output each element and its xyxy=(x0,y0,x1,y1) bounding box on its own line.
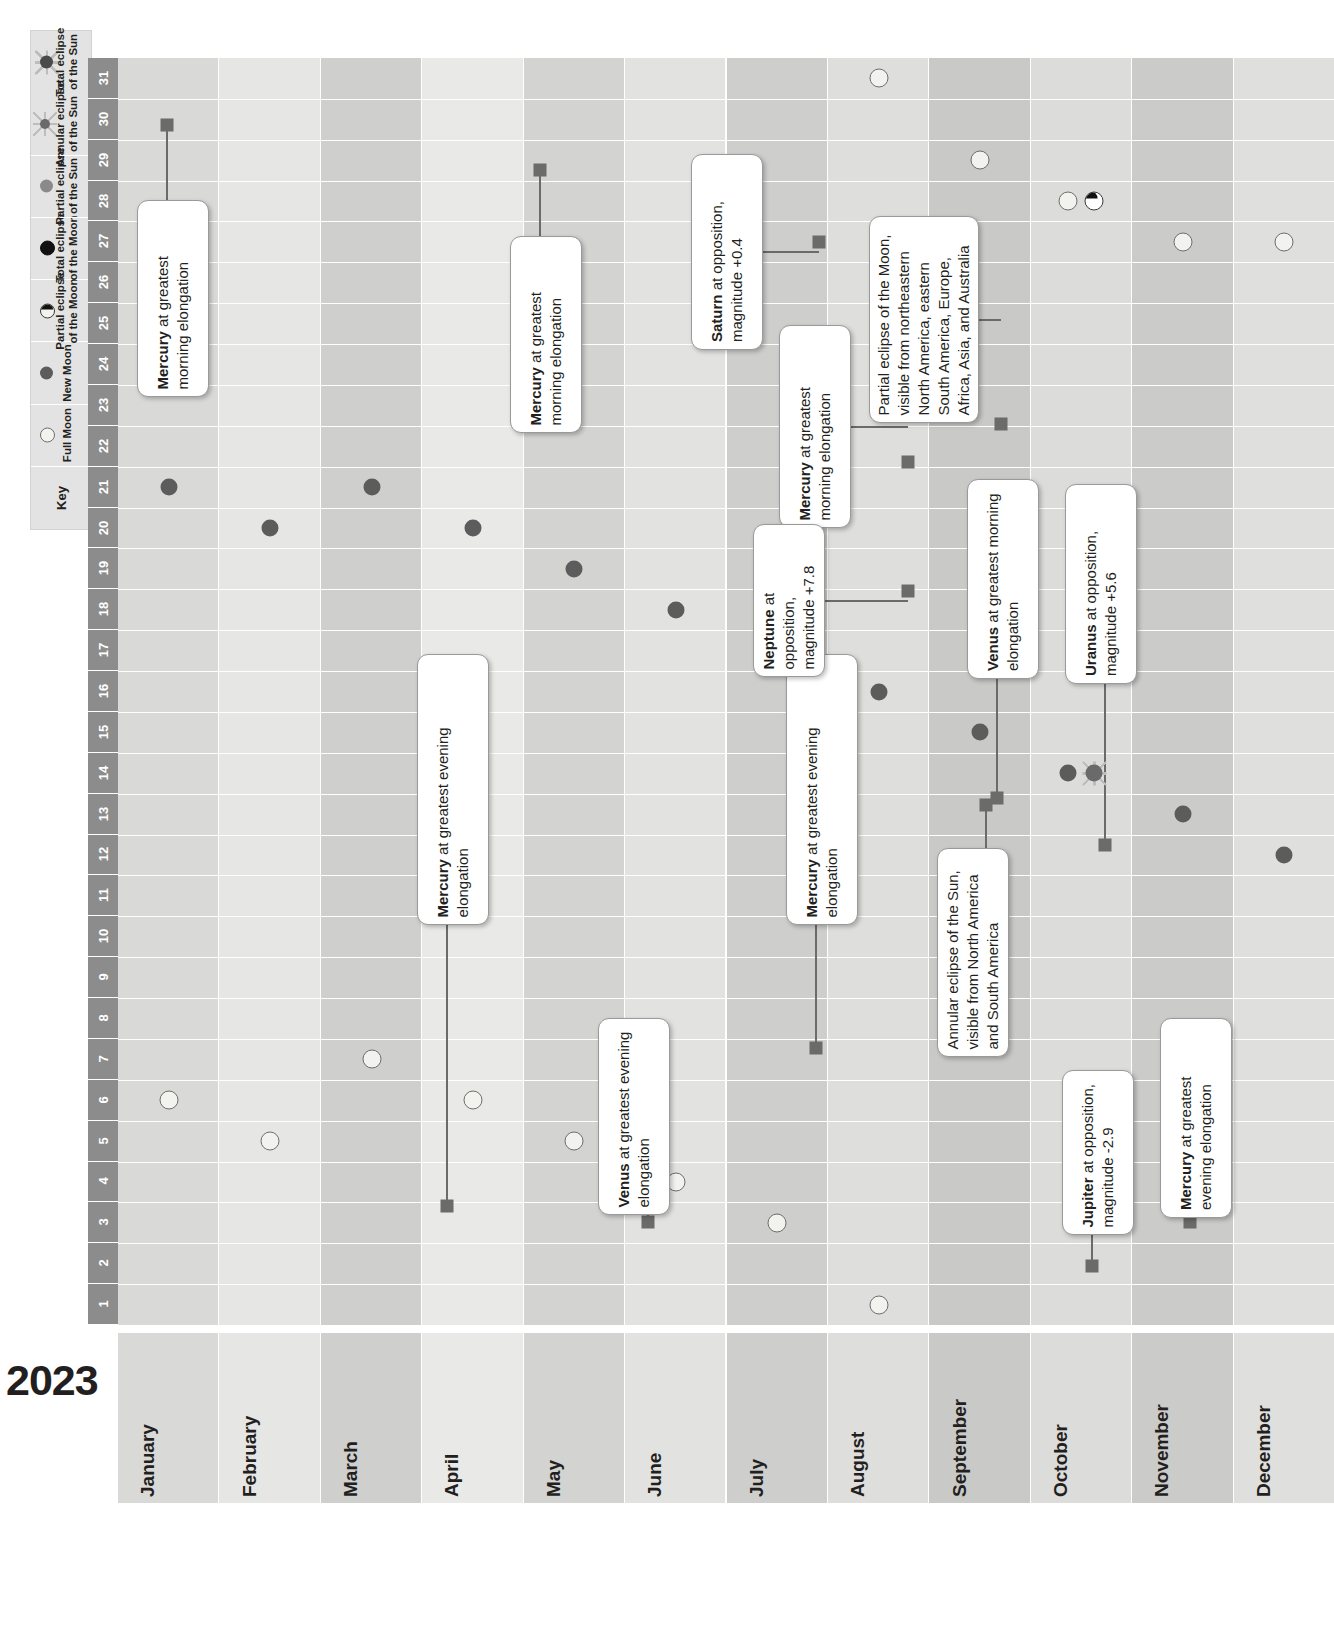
event-callout-text: Saturn at opposition, magnitude +0.4 xyxy=(707,162,747,342)
annular-solar-eclipse-icon xyxy=(40,119,50,129)
grid-row-line xyxy=(118,1284,1334,1285)
event-anchor-marker xyxy=(441,1200,454,1213)
grid-row-line xyxy=(118,794,1334,795)
event-leader-line xyxy=(996,679,998,798)
day-number: 25 xyxy=(96,316,111,330)
grid-row-line xyxy=(118,426,1334,427)
new-moon-icon xyxy=(40,366,53,379)
full-moon-marker xyxy=(261,1132,280,1151)
event-callout-text: Mercury at greatest evening elongation xyxy=(433,662,473,917)
legend-item-total-lunar-eclipse: Total eclipseof the Moon xyxy=(31,218,91,280)
total-lunar-eclipse-icon xyxy=(40,241,55,256)
month-label-november: November xyxy=(1132,1333,1233,1503)
day-header-cell: 23 xyxy=(88,385,118,426)
month-label-october: October xyxy=(1031,1333,1132,1503)
month-label-july: July xyxy=(727,1333,828,1503)
month-label-band: JanuaryFebruaryMarchAprilMayJuneJulyAugu… xyxy=(118,1333,1334,1503)
new-moon-marker xyxy=(464,520,481,537)
event-callout-text: Mercury at greatest morning elongation xyxy=(795,333,835,520)
event-callout-text: Mercury at greatest morning elongation xyxy=(526,244,566,425)
day-number: 21 xyxy=(96,479,111,493)
month-label-text: September xyxy=(949,1399,971,1497)
day-number: 3 xyxy=(96,1219,111,1226)
month-label-text: October xyxy=(1050,1424,1072,1497)
day-header-cell: 2 xyxy=(88,1243,118,1284)
grid-row-line xyxy=(118,753,1334,754)
full-moon-marker xyxy=(1275,232,1294,251)
event-leader-line xyxy=(166,125,168,200)
calendar-page: 2023 KeyFull MoonNew MoonPartial eclipse… xyxy=(0,0,1334,1627)
event-anchor-marker xyxy=(995,418,1008,431)
legend-item-total-solar-eclipse: Total eclipseof the Sun xyxy=(31,31,91,93)
month-label-text: May xyxy=(543,1460,565,1497)
month-label-text: August xyxy=(847,1432,869,1497)
day-number: 14 xyxy=(96,765,111,779)
partial-solar-eclipse-icon xyxy=(40,180,53,193)
month-label-may: May xyxy=(524,1333,625,1503)
event-leader-line xyxy=(539,170,541,236)
day-header-cell: 30 xyxy=(88,99,118,140)
new-moon-marker xyxy=(870,683,887,700)
event-callout: Mercury at greatest morning elongation xyxy=(779,325,851,528)
event-callout: Jupiter at opposition, magnitude -2.9 xyxy=(1062,1070,1134,1235)
legend-key: KeyFull MoonNew MoonPartial eclipseof th… xyxy=(30,30,92,530)
legend-item-annular-solar-eclipse: Annular eclipseof the Sun xyxy=(31,93,91,155)
event-leader-line xyxy=(979,319,1001,321)
legend-item-full-moon: Full Moon xyxy=(31,405,91,467)
month-label-february: February xyxy=(219,1333,320,1503)
event-callout-text: Mercury at greatest morning elongation xyxy=(153,208,193,389)
event-callout: Mercury at greatest evening elongation xyxy=(417,654,489,925)
event-anchor-marker xyxy=(810,1042,823,1055)
day-number: 8 xyxy=(96,1014,111,1021)
grid-row-line xyxy=(118,467,1334,468)
event-callout: Venus at greatest morning elongation xyxy=(967,479,1039,679)
annular-solar-eclipse-marker xyxy=(1086,765,1103,782)
day-number: 7 xyxy=(96,1055,111,1062)
grid-row-line xyxy=(118,712,1334,713)
full-moon-marker xyxy=(869,69,888,88)
month-label-text: December xyxy=(1253,1405,1275,1497)
day-number: 27 xyxy=(96,234,111,248)
legend-item-label: Partial eclipseof the Moon xyxy=(54,272,80,349)
event-callout: Mercury at greatest evening elongation xyxy=(1160,1018,1232,1218)
day-header-cell: 7 xyxy=(88,1039,118,1080)
day-header-cell: 16 xyxy=(88,671,118,712)
event-leader-line xyxy=(815,925,817,1048)
month-label-text: January xyxy=(137,1424,159,1497)
month-label-april: April xyxy=(422,1333,523,1503)
month-label-september: September xyxy=(929,1333,1030,1503)
day-number: 11 xyxy=(96,888,111,902)
day-header-cell: 27 xyxy=(88,221,118,262)
event-callout-text: Mercury at greatest evening elongation xyxy=(802,662,842,917)
full-moon-icon xyxy=(40,428,55,443)
day-header-cell: 25 xyxy=(88,303,118,344)
day-header-cell: 29 xyxy=(88,140,118,181)
event-callout-text: Neptune at opposition, magnitude +7.8 xyxy=(759,532,819,669)
new-moon-marker xyxy=(363,479,380,496)
new-moon-marker xyxy=(1276,846,1293,863)
day-header-cell: 9 xyxy=(88,957,118,998)
event-anchor-marker xyxy=(642,1216,655,1229)
event-callout: Uranus at opposition, magnitude +5.6 xyxy=(1065,484,1137,684)
day-number: 31 xyxy=(96,71,111,85)
day-header-cell: 28 xyxy=(88,181,118,222)
day-number: 29 xyxy=(96,152,111,166)
full-moon-marker xyxy=(768,1213,787,1232)
total-solar-eclipse-icon xyxy=(40,56,53,69)
event-callout: Venus at greatest evening elongation xyxy=(598,1018,670,1215)
grid-row-line xyxy=(118,99,1334,100)
day-number: 19 xyxy=(96,561,111,575)
new-moon-marker xyxy=(566,560,583,577)
day-number: 5 xyxy=(96,1137,111,1144)
day-number: 1 xyxy=(96,1300,111,1307)
event-callout-text: Venus at greatest evening elongation xyxy=(614,1026,654,1207)
partial-lunar-eclipse-icon xyxy=(40,303,55,318)
day-number: 9 xyxy=(96,973,111,980)
new-moon-marker xyxy=(1174,806,1191,823)
day-number: 30 xyxy=(96,112,111,126)
day-number: 4 xyxy=(96,1178,111,1185)
day-header-cell: 1 xyxy=(88,1284,118,1325)
legend-item-new-moon: New Moon xyxy=(31,342,91,404)
event-anchor-marker xyxy=(902,456,915,469)
day-number: 16 xyxy=(96,684,111,698)
